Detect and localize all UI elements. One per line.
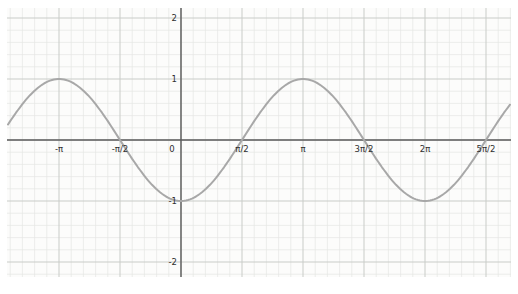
x-tick-label: π/2 [235, 144, 248, 154]
y-tick-label: 2 [172, 13, 177, 23]
function-plot: -π-π/20π/2π3π/22π5π/221-1-2 [0, 0, 518, 294]
y-tick-label: 1 [172, 74, 177, 84]
y-tick-label: -1 [169, 196, 177, 206]
x-tick-label: 3π/2 [355, 144, 374, 154]
graph-page: -π-π/20π/2π3π/22π5π/221-1-2 [0, 0, 518, 294]
x-tick-label: π [300, 144, 305, 154]
x-tick-label: 5π/2 [477, 144, 496, 154]
x-tick-label: -π [55, 144, 63, 154]
x-tick-label: 0 [169, 144, 174, 154]
x-tick-label: -π/2 [112, 144, 128, 154]
graph-paper-background [7, 8, 511, 277]
y-tick-label: -2 [169, 257, 177, 267]
x-tick-label: 2π [420, 144, 431, 154]
